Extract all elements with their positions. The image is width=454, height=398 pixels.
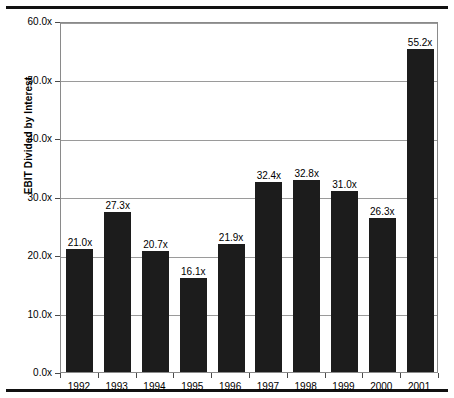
x-tick-label: 2001	[400, 381, 438, 392]
x-tick-label: 1999	[325, 381, 363, 392]
y-tick-mark	[55, 81, 60, 82]
x-axis: 1992199319941995199619971998199920002001	[60, 373, 438, 398]
y-tick-label: 20.0x	[28, 251, 52, 261]
bar[interactable]	[293, 180, 320, 372]
y-tick-mark	[55, 256, 60, 257]
bar[interactable]	[142, 251, 169, 372]
x-tick-mark	[249, 373, 250, 378]
x-tick-label: 1998	[287, 381, 325, 392]
y-axis-tick-labels: 0.0x10.0x20.0x30.0x40.0x50.0x60.0x	[0, 0, 58, 398]
x-tick-mark	[173, 373, 174, 378]
bar-value-label: 55.2x	[399, 38, 442, 48]
y-tick-label: 50.0x	[28, 76, 52, 86]
x-tick-mark	[362, 373, 363, 378]
y-tick-mark	[55, 139, 60, 140]
x-tick-label: 1996	[211, 381, 249, 392]
gridline	[61, 81, 437, 82]
y-tick-mark	[55, 373, 60, 374]
y-tick-mark	[55, 315, 60, 316]
gridline	[61, 140, 437, 141]
gridline	[61, 23, 437, 24]
top-rule	[6, 6, 448, 9]
bar[interactable]	[104, 212, 131, 372]
x-tick-mark	[438, 373, 439, 378]
bar[interactable]	[407, 49, 434, 372]
bar[interactable]	[180, 278, 207, 372]
plot-area: 21.0x27.3x20.7x16.1x21.9x32.4x32.8x31.0x…	[60, 22, 438, 373]
x-tick-label: 1994	[136, 381, 174, 392]
bar-value-label: 20.7x	[134, 240, 177, 250]
bar-value-label: 32.8x	[285, 169, 328, 179]
bar-value-label: 16.1x	[172, 267, 215, 277]
bar-value-label: 21.9x	[210, 233, 253, 243]
x-tick-mark	[400, 373, 401, 378]
y-tick-label: 10.0x	[28, 310, 52, 320]
y-tick-mark	[55, 22, 60, 23]
bar-value-label: 27.3x	[96, 201, 139, 211]
bar[interactable]	[218, 244, 245, 372]
x-tick-label: 1997	[249, 381, 287, 392]
x-tick-label: 1992	[60, 381, 98, 392]
x-tick-mark	[287, 373, 288, 378]
x-tick-label: 1993	[98, 381, 136, 392]
x-tick-label: 2000	[362, 381, 400, 392]
x-tick-mark	[325, 373, 326, 378]
x-tick-label: 1995	[173, 381, 211, 392]
x-tick-mark	[211, 373, 212, 378]
x-tick-mark	[98, 373, 99, 378]
y-tick-label: 60.0x	[28, 17, 52, 27]
bar-value-label: 32.4x	[247, 171, 290, 181]
y-tick-label: 0.0x	[33, 368, 52, 378]
x-tick-mark	[136, 373, 137, 378]
bar[interactable]	[369, 218, 396, 372]
bar-value-label: 21.0x	[58, 238, 101, 248]
bar[interactable]	[255, 182, 282, 372]
bar-value-label: 26.3x	[361, 207, 404, 217]
bar[interactable]	[331, 191, 358, 372]
x-tick-mark	[60, 373, 61, 378]
y-tick-label: 30.0x	[28, 193, 52, 203]
y-tick-mark	[55, 198, 60, 199]
bar[interactable]	[66, 249, 93, 372]
bar-value-label: 31.0x	[323, 180, 366, 190]
y-tick-label: 40.0x	[28, 134, 52, 144]
gridline	[61, 198, 437, 199]
